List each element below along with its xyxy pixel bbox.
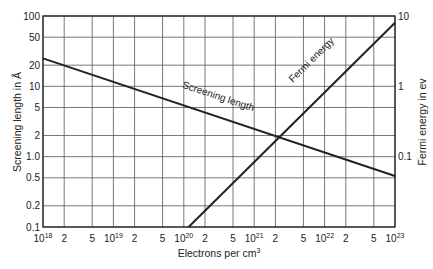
x-tick-label: 1020: [174, 232, 193, 244]
x-tick-label: 2: [61, 233, 67, 244]
right-tick-label: 10: [398, 11, 410, 22]
chart: Screening lengthFermi energy 10182510192…: [0, 0, 433, 269]
x-tick-label: 5: [371, 233, 377, 244]
plot-frame: [43, 16, 395, 227]
left-tick-label: 0.5: [26, 172, 40, 183]
left-axis-label: Screening length in Å: [11, 72, 23, 172]
x-tick-label: 2: [132, 233, 138, 244]
x-tick-label: 5: [230, 233, 236, 244]
left-tick-label: 10: [29, 81, 41, 92]
x-tick-label: 1019: [104, 232, 123, 244]
x-tick-label: 2: [343, 233, 349, 244]
x-tick-label: 1023: [386, 232, 405, 244]
left-tick-label: 1.0: [26, 151, 40, 162]
left-tick-label: 100: [23, 11, 40, 22]
left-tick-label: 20: [29, 60, 41, 71]
x-axis-label: Electrons per cm3: [178, 247, 261, 259]
left-tick-label: 2: [34, 130, 40, 141]
x-tick-label: 5: [89, 233, 95, 244]
x-tick-label: 5: [301, 233, 307, 244]
x-tick-label: 2: [202, 233, 208, 244]
series-lines: Screening lengthFermi energy: [43, 23, 395, 227]
right-tick-label: 1: [398, 81, 404, 92]
right-axis-ticks: 0.1110: [398, 11, 412, 163]
x-axis-ticks: 1018251019251020251021251022251023: [34, 232, 405, 244]
right-axis-label: Fermi energy in ev: [416, 78, 428, 166]
right-tick-label: 0.1: [398, 151, 412, 162]
x-tick-label: 1018: [34, 232, 53, 244]
x-tick-label: 2: [273, 233, 279, 244]
x-tick-label: 1021: [245, 232, 264, 244]
fermi-energy-line: [189, 23, 395, 227]
left-tick-label: 50: [29, 32, 41, 43]
x-tick-label: 5: [160, 233, 166, 244]
grid-lines: [43, 16, 395, 227]
fermi-energy-label: Fermi energy: [286, 35, 336, 84]
left-tick-label: 0.2: [26, 200, 40, 211]
left-axis-ticks: 0.10.20.51.025102050100: [23, 11, 40, 233]
left-tick-label: 5: [34, 102, 40, 113]
left-tick-label: 0.1: [26, 222, 40, 233]
x-tick-label: 1022: [315, 232, 334, 244]
